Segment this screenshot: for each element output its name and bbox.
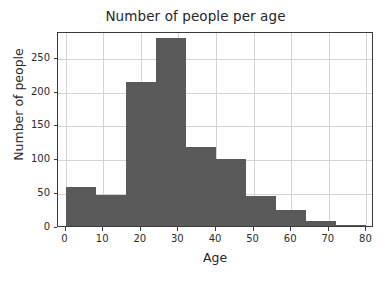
y-axis-label: Number of people	[11, 25, 26, 185]
histogram-bar	[336, 225, 366, 226]
x-tick-mark	[290, 227, 291, 231]
y-tick-label: 0	[9, 221, 50, 232]
histogram-bar	[66, 187, 96, 226]
x-tick-mark	[365, 227, 366, 231]
x-tick-label: 30	[157, 233, 197, 244]
y-tick-label: 50	[9, 187, 50, 198]
histogram-bar	[306, 221, 336, 226]
histogram-bars	[58, 33, 372, 226]
histogram-bar	[156, 38, 186, 226]
x-tick-mark	[140, 227, 141, 231]
histogram-bar	[126, 82, 156, 226]
histogram-bar	[216, 159, 246, 226]
y-tick-mark	[54, 159, 58, 160]
histogram-bar	[246, 196, 276, 226]
chart-title: Number of people per age	[0, 8, 391, 24]
x-tick-mark	[253, 227, 254, 231]
x-tick-mark	[102, 227, 103, 231]
histogram-bar	[186, 147, 216, 226]
x-tick-label: 0	[45, 233, 85, 244]
y-tick-mark	[54, 58, 58, 59]
x-tick-label: 10	[82, 233, 122, 244]
x-tick-label: 80	[345, 233, 385, 244]
y-tick-mark	[54, 227, 58, 228]
x-axis-label: Age	[57, 250, 373, 265]
x-tick-label: 40	[195, 233, 235, 244]
x-tick-label: 50	[233, 233, 273, 244]
x-tick-mark	[65, 227, 66, 231]
x-tick-label: 70	[308, 233, 348, 244]
y-tick-mark	[54, 125, 58, 126]
chart-figure: Number of people per age 050100150200250…	[0, 0, 391, 288]
y-tick-mark	[54, 92, 58, 93]
x-tick-label: 60	[270, 233, 310, 244]
y-tick-mark	[54, 193, 58, 194]
x-tick-mark	[328, 227, 329, 231]
x-tick-label: 20	[120, 233, 160, 244]
plot-area	[57, 32, 373, 227]
x-tick-mark	[177, 227, 178, 231]
histogram-bar	[276, 210, 306, 226]
histogram-bar	[96, 195, 126, 226]
x-tick-mark	[215, 227, 216, 231]
